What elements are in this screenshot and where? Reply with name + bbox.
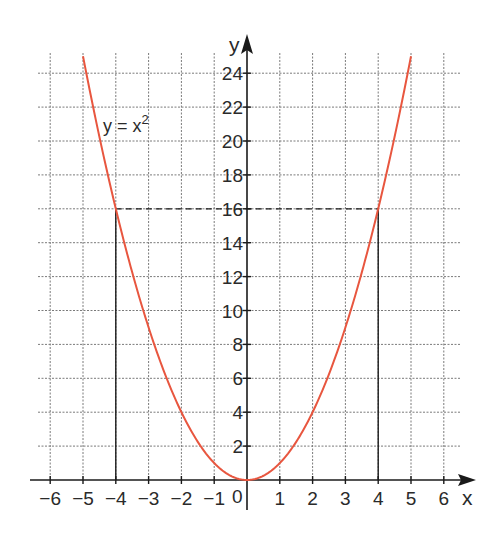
origin-label: 0 — [232, 486, 243, 507]
function-label-exponent: 2 — [142, 112, 149, 127]
x-tick-label: 5 — [406, 488, 417, 509]
function-label-base: y = x — [103, 116, 142, 136]
tick-labels: −6−5−4−3−2−112345624681012141618202224 — [39, 63, 449, 509]
y-tick-label: 18 — [222, 165, 243, 186]
function-label: y = x2 — [103, 112, 149, 136]
y-tick-label: 2 — [232, 436, 243, 457]
y-axis-label: y — [229, 33, 240, 56]
x-tick-label: 3 — [340, 488, 351, 509]
x-tick-label: −6 — [39, 488, 61, 509]
y-tick-label: 16 — [222, 199, 243, 220]
x-tick-label: 6 — [439, 488, 450, 509]
function-graph: −6−5−4−3−2−112345624681012141618202224 y… — [0, 0, 492, 542]
x-tick-label: −2 — [171, 488, 193, 509]
x-tick-label: 1 — [275, 488, 286, 509]
y-tick-label: 8 — [232, 334, 243, 355]
x-tick-label: 2 — [307, 488, 318, 509]
x-tick-label: −1 — [203, 488, 225, 509]
y-tick-label: 24 — [222, 63, 244, 84]
grid-lines — [38, 53, 461, 480]
x-tick-label: −4 — [105, 488, 127, 509]
x-tick-label: −5 — [72, 488, 94, 509]
x-tick-label: −3 — [138, 488, 160, 509]
y-tick-label: 12 — [222, 267, 243, 288]
y-tick-label: 20 — [222, 131, 243, 152]
y-tick-label: 14 — [222, 233, 244, 254]
x-tick-label: 4 — [373, 488, 384, 509]
y-tick-label: 6 — [232, 368, 243, 389]
y-tick-label: 22 — [222, 97, 243, 118]
x-axis-label: x — [462, 486, 473, 509]
y-tick-label: 10 — [222, 301, 243, 322]
y-tick-label: 4 — [232, 402, 243, 423]
axes — [30, 34, 476, 510]
